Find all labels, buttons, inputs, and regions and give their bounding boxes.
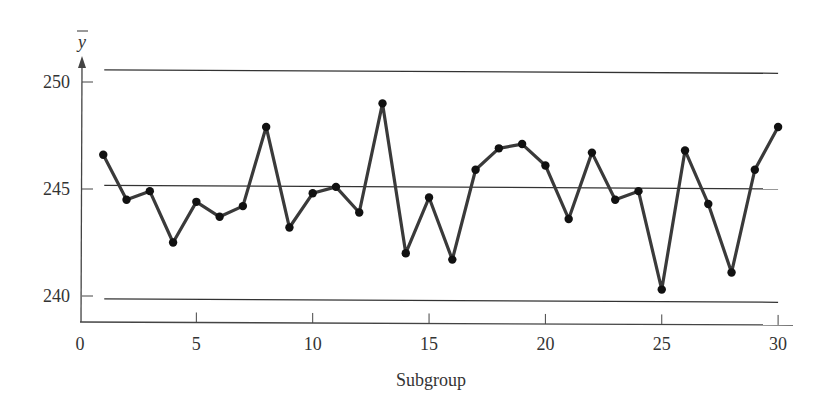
x-tick-label: 10 bbox=[304, 334, 322, 354]
data-point-marker bbox=[332, 183, 340, 191]
data-point-marker bbox=[751, 166, 759, 174]
control-limit-lines bbox=[104, 70, 778, 302]
data-point-marker bbox=[192, 198, 200, 206]
data-point-marker bbox=[355, 208, 363, 216]
x-tick-label: 30 bbox=[769, 334, 787, 354]
data-point-marker bbox=[588, 148, 596, 156]
data-point-marker bbox=[471, 166, 479, 174]
data-point-marker bbox=[402, 249, 410, 257]
data-point-marker bbox=[541, 161, 549, 169]
data-point-marker bbox=[146, 187, 154, 195]
data-point-marker bbox=[518, 140, 526, 148]
x-tick-label: 25 bbox=[653, 334, 671, 354]
xbar-control-chart: 240245250051015202530 y Subgroup bbox=[0, 0, 824, 413]
y-tick-label: 250 bbox=[43, 72, 70, 92]
center-line bbox=[104, 185, 778, 189]
data-point-marker bbox=[215, 213, 223, 221]
x-axis-label: Subgroup bbox=[396, 370, 466, 390]
data-point-marker bbox=[285, 223, 293, 231]
data-point-marker bbox=[564, 215, 572, 223]
data-point-marker bbox=[425, 193, 433, 201]
x-axis-line bbox=[80, 322, 793, 325]
series-line bbox=[103, 103, 778, 289]
y-tick-label: 240 bbox=[43, 286, 70, 306]
data-point-marker bbox=[239, 202, 247, 210]
data-series bbox=[99, 99, 782, 294]
data-point-marker bbox=[122, 196, 130, 204]
x-tick-label: 20 bbox=[536, 334, 554, 354]
x-tick-label: 0 bbox=[76, 334, 85, 354]
data-point-marker bbox=[262, 123, 270, 131]
data-point-marker bbox=[495, 144, 503, 152]
axis-labels: y Subgroup bbox=[76, 31, 466, 390]
data-point-marker bbox=[309, 189, 317, 197]
data-point-marker bbox=[99, 151, 107, 159]
data-point-marker bbox=[611, 196, 619, 204]
lcl-line bbox=[104, 299, 778, 303]
y-axis-line bbox=[81, 66, 82, 322]
data-point-marker bbox=[634, 187, 642, 195]
data-point-marker bbox=[169, 238, 177, 246]
data-point-marker bbox=[704, 200, 712, 208]
x-tick-label: 15 bbox=[420, 334, 438, 354]
y-axis-arrow-icon bbox=[78, 56, 86, 68]
x-tick-label: 5 bbox=[192, 334, 201, 354]
data-point-marker bbox=[774, 123, 782, 131]
data-point-marker bbox=[681, 146, 689, 154]
y-axis-label: y bbox=[76, 32, 86, 52]
data-point-marker bbox=[727, 268, 735, 276]
y-tick-label: 245 bbox=[43, 179, 70, 199]
data-point-marker bbox=[448, 255, 456, 263]
ucl-line bbox=[104, 70, 778, 74]
data-point-marker bbox=[658, 285, 666, 293]
data-point-marker bbox=[378, 99, 386, 107]
